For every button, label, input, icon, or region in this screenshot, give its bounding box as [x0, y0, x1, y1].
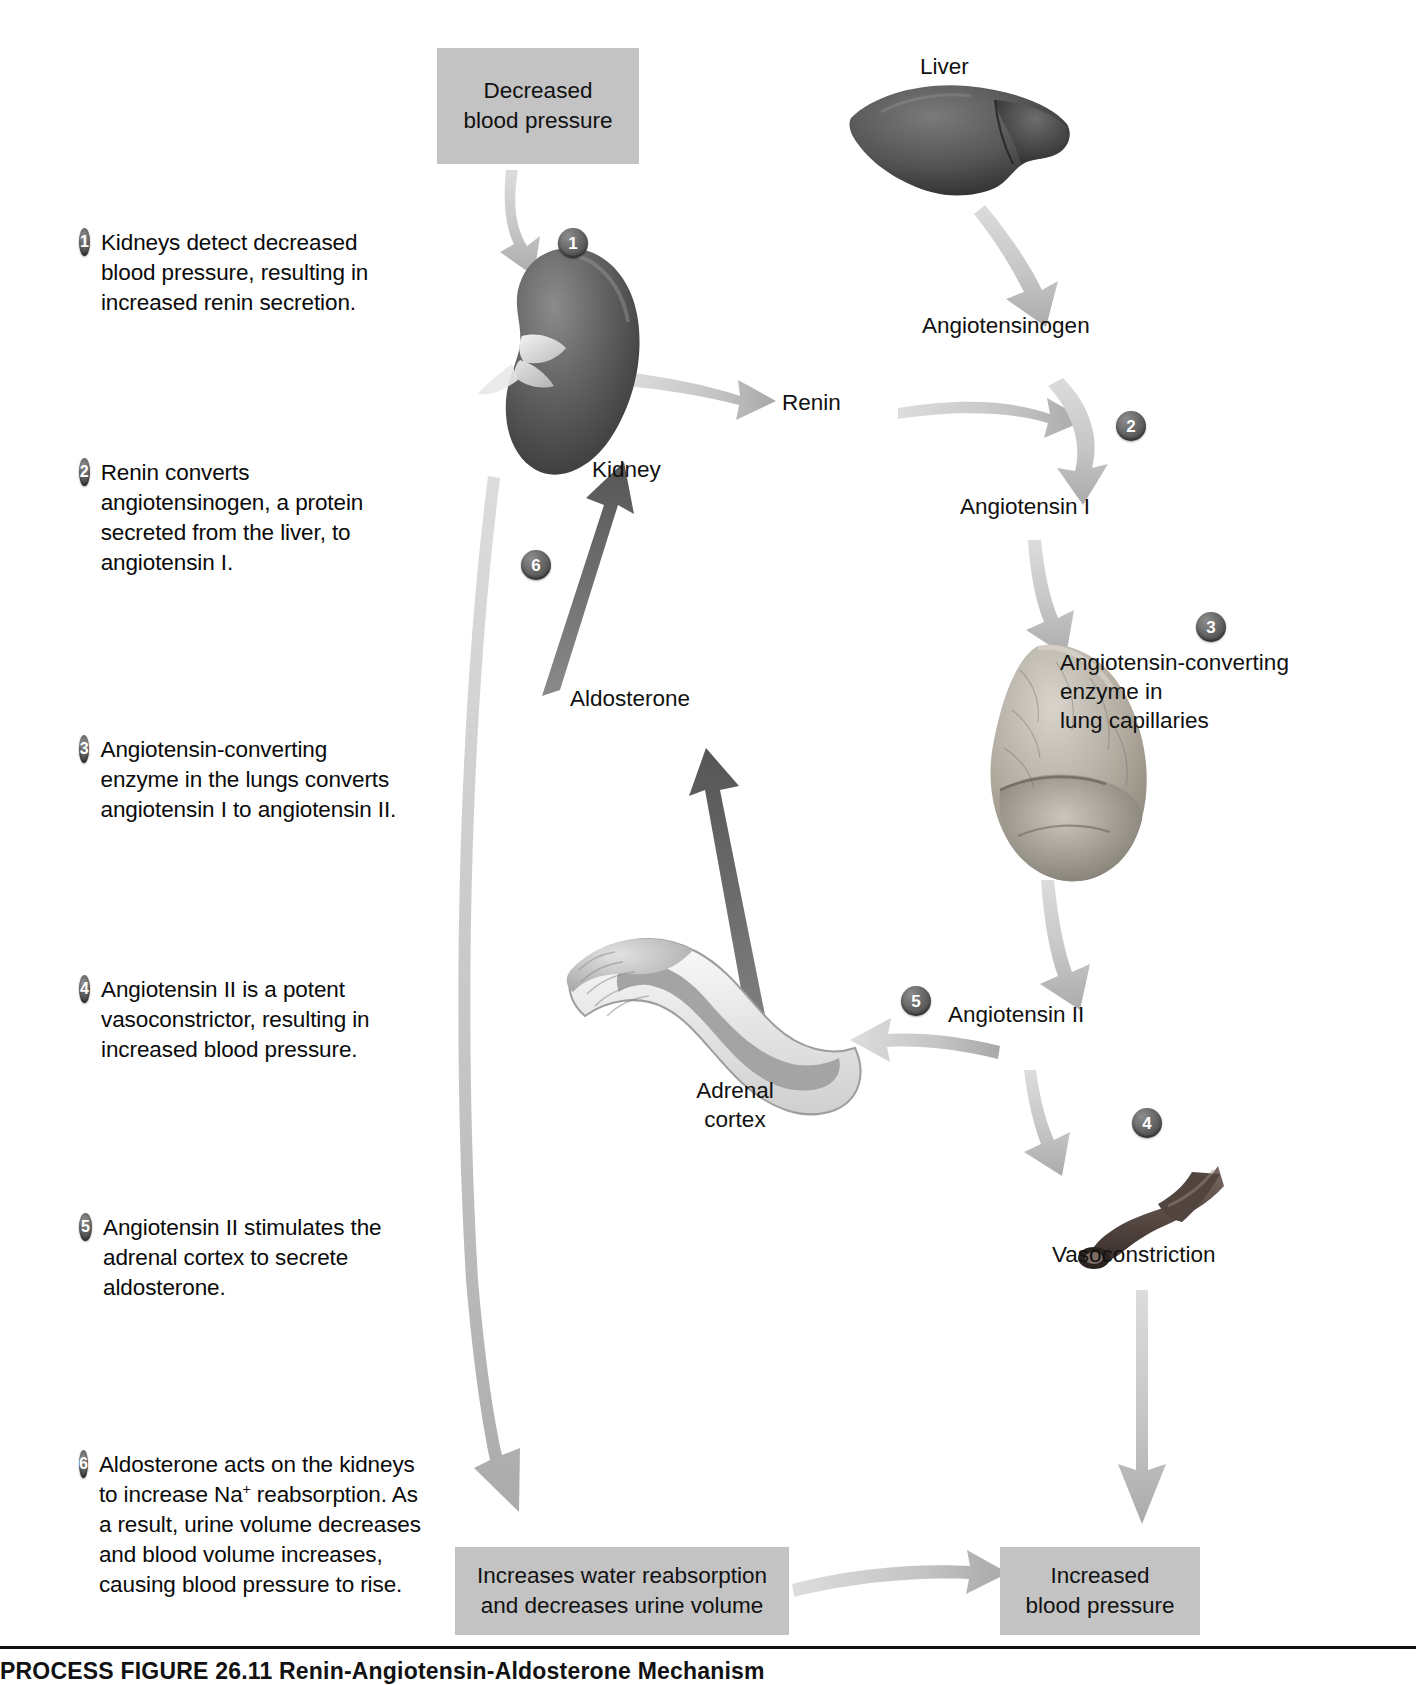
arrow-renin-to-angiotensin1 [898, 398, 1086, 438]
label-liver: Liver [920, 52, 969, 81]
label-angiotensinogen: Angiotensinogen [922, 311, 1090, 340]
legend-text-5: Angiotensin II stimulates the adrenal co… [103, 1213, 409, 1303]
legend-badge-1: 1 [79, 228, 90, 256]
label-adrenal-line2: cortex [660, 1105, 810, 1134]
legend-item-6: 6 Aldosterone acts on the kidneys to inc… [79, 1450, 424, 1600]
box-water-line1: Increases water reabsorption [477, 1561, 767, 1591]
box-water-line2: and decreases urine volume [477, 1591, 767, 1621]
legend-badge-4: 4 [79, 975, 90, 1003]
legend-item-1: 1 Kidneys detect decreased blood pressur… [79, 228, 409, 318]
label-angiotensin-2: Angiotensin II [948, 1000, 1084, 1029]
label-kidney: Kidney [592, 455, 661, 484]
label-ace-lung-capillaries: Angiotensin-converting enzyme in lung ca… [1060, 648, 1360, 735]
label-ace-line3: lung capillaries [1060, 706, 1360, 735]
arrow-angiotensinogen-to-angiotensin1 [1048, 378, 1108, 505]
legend-item-4: 4 Angiotensin II is a potent vasoconstri… [79, 975, 409, 1065]
label-renin: Renin [782, 388, 841, 417]
figure-caption-label: PROCESS FIGURE 26.11 [0, 1658, 272, 1684]
box-increased-bp-line1: Increased [1026, 1561, 1175, 1591]
arrow-angiotensin1-to-lungs [1026, 540, 1074, 656]
label-vasoconstriction: Vasoconstriction [1052, 1240, 1215, 1269]
arrow-angiotensin2-to-vasoconstriction [1024, 1070, 1070, 1176]
arrow-water-to-increased-bp [792, 1550, 1008, 1597]
label-aldosterone: Aldosterone [570, 684, 690, 713]
figure-caption: PROCESS FIGURE 26.11 Renin-Angiotensin-A… [0, 1658, 765, 1685]
label-angiotensin-1: Angiotensin I [960, 492, 1090, 521]
legend-text-6-superscript: + [243, 1481, 251, 1497]
legend-item-2: 2 Renin converts angiotensinogen, a prot… [79, 458, 409, 578]
legend-badge-2: 2 [79, 458, 90, 486]
legend-item-3: 3 Angiotensin-converting enzyme in the l… [79, 735, 409, 825]
box-decreased-bp-line2: blood pressure [464, 106, 613, 136]
box-increases-water-reabsorption: Increases water reabsorption and decreas… [455, 1547, 789, 1635]
box-decreased-bp-line1: Decreased [464, 76, 613, 106]
legend-badge-3: 3 [79, 735, 89, 763]
legend-text-4: Angiotensin II is a potent vasoconstrict… [101, 975, 409, 1065]
caption-divider [0, 1646, 1416, 1649]
legend-text-2: Renin converts angiotensinogen, a protei… [101, 458, 409, 578]
diagram-step-badge-2: 2 [1116, 411, 1146, 441]
diagram-step-badge-5: 5 [901, 986, 931, 1016]
legend-text-3: Angiotensin-converting enzyme in the lun… [100, 735, 409, 825]
legend-text-1: Kidneys detect decreased blood pressure,… [101, 228, 409, 318]
figure-caption-title: Renin-Angiotensin-Aldosterone Mechanism [279, 1658, 765, 1684]
legend-badge-5: 5 [79, 1213, 92, 1241]
arrow-aldosterone-to-kidney [542, 462, 634, 696]
liver-illustration [845, 72, 1075, 212]
diagram-step-badge-6: 6 [521, 550, 551, 580]
box-decreased-blood-pressure: Decreased blood pressure [437, 48, 639, 164]
label-adrenal-cortex: Adrenal cortex [660, 1076, 810, 1134]
box-increased-bp-line2: blood pressure [1026, 1591, 1175, 1621]
label-ace-line1: Angiotensin-converting [1060, 648, 1360, 677]
diagram-step-badge-3: 3 [1196, 612, 1226, 642]
kidney-illustration [470, 240, 650, 490]
legend-item-5: 5 Angiotensin II stimulates the adrenal … [79, 1213, 409, 1303]
arrow-kidney-to-water-reabsorption [458, 476, 520, 1512]
box-increased-blood-pressure: Increased blood pressure [1000, 1547, 1200, 1635]
label-adrenal-line1: Adrenal [660, 1076, 810, 1105]
arrow-lungs-to-angiotensin2 [1040, 880, 1090, 1010]
legend-text-6: Aldosterone acts on the kidneys to incre… [99, 1450, 424, 1600]
arrow-vasoconstriction-to-increased-bp [1118, 1290, 1166, 1524]
diagram-step-badge-4: 4 [1132, 1108, 1162, 1138]
legend-badge-6: 6 [79, 1450, 88, 1478]
arrow-liver-to-angiotensinogen [974, 205, 1058, 327]
diagram-step-badge-1: 1 [558, 228, 588, 258]
label-ace-line2: enzyme in [1060, 677, 1360, 706]
